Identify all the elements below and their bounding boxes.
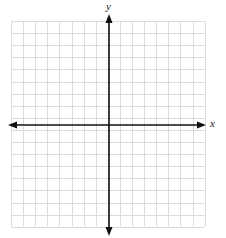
y-axis-up-arrow-icon — [106, 14, 113, 23]
x-axis-right-arrow-icon — [197, 122, 206, 129]
coordinate-plane — [0, 0, 226, 238]
y-axis-label: y — [106, 0, 111, 12]
x-axis-label: x — [210, 117, 215, 129]
axes — [8, 14, 206, 236]
y-axis-down-arrow-icon — [106, 227, 113, 236]
x-axis-left-arrow-icon — [8, 122, 17, 129]
